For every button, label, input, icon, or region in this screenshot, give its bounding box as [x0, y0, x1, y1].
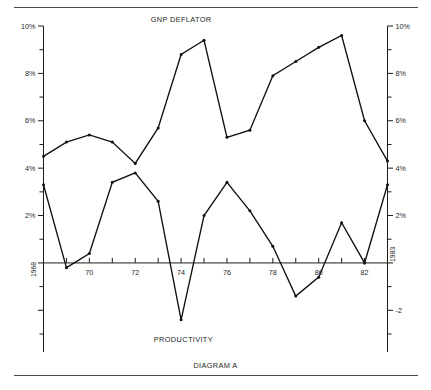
data-point: [271, 74, 274, 77]
x-axis-tick-label: 74: [177, 268, 185, 277]
data-point: [203, 214, 206, 217]
data-point: [363, 119, 366, 122]
data-point: [203, 39, 206, 42]
data-point: [363, 261, 366, 264]
data-point: [134, 171, 137, 174]
productivity-caption: PRODUCTIVITY: [154, 335, 213, 344]
figure-caption: DIAGRAM A: [193, 361, 237, 370]
data-point: [294, 60, 297, 63]
data-point: [111, 141, 114, 144]
data-point: [42, 155, 45, 158]
x-axis-tick-label: 76: [223, 268, 231, 277]
data-point: [317, 46, 320, 49]
data-point: [248, 129, 251, 132]
data-point: [180, 53, 183, 56]
x-axis-tick-label: 78: [269, 268, 277, 277]
data-point: [294, 295, 297, 298]
annotation-layer: GNP DEFLATORPRODUCTIVITY: [151, 15, 213, 344]
data-point: [248, 209, 251, 212]
x-axis-tick-label: 70: [85, 268, 93, 277]
right-axis-tick-label: 2%: [396, 211, 407, 220]
right-axis-tick-label: -2: [396, 306, 402, 315]
data-point: [42, 183, 45, 186]
x-axis-start-year-label: 1968: [31, 262, 38, 277]
line-chart: 10%8%6%4%2%1968 10%8%6%4%2%-21983 707274…: [0, 0, 431, 390]
left-axis-tick-label: 6%: [25, 116, 36, 125]
data-point: [134, 162, 137, 165]
data-point: [65, 266, 68, 269]
right-axis-tick-label: 8%: [396, 69, 407, 78]
data-point: [386, 183, 389, 186]
x-axis-end-year-label: 1983: [390, 247, 397, 262]
data-point: [317, 276, 320, 279]
right-axis: 10%8%6%4%2%-21983: [388, 22, 411, 352]
x-axis: 70727476788082: [44, 258, 388, 278]
right-axis-tick-label: 4%: [396, 164, 407, 173]
data-point: [88, 133, 91, 136]
data-point: [65, 141, 68, 144]
data-point: [88, 252, 91, 255]
left-axis-tick-label: 4%: [25, 164, 36, 173]
data-point: [340, 34, 343, 37]
left-axis-tick-label: 8%: [25, 69, 36, 78]
gnp-deflator-caption: GNP DEFLATOR: [151, 15, 212, 24]
right-axis-tick-label: 6%: [396, 116, 407, 125]
data-point: [157, 200, 160, 203]
series-line-gnp-deflator: [44, 35, 388, 163]
left-axis-tick-label: 10%: [21, 22, 36, 31]
data-point: [180, 318, 183, 321]
data-point: [157, 126, 160, 129]
data-point: [271, 245, 274, 248]
data-point: [340, 221, 343, 224]
series-layer: [42, 34, 389, 321]
series-line-productivity: [44, 173, 388, 320]
right-axis-tick-label: 10%: [396, 22, 411, 31]
data-point: [386, 160, 389, 163]
diagram-figure: 10%8%6%4%2%1968 10%8%6%4%2%-21983 707274…: [0, 0, 431, 390]
left-axis: 10%8%6%4%2%1968: [21, 22, 43, 352]
x-axis-tick-label: 82: [361, 268, 369, 277]
data-point: [111, 181, 114, 184]
data-point: [225, 136, 228, 139]
data-point: [225, 181, 228, 184]
x-axis-tick-label: 72: [131, 268, 139, 277]
left-axis-tick-label: 2%: [25, 211, 36, 220]
